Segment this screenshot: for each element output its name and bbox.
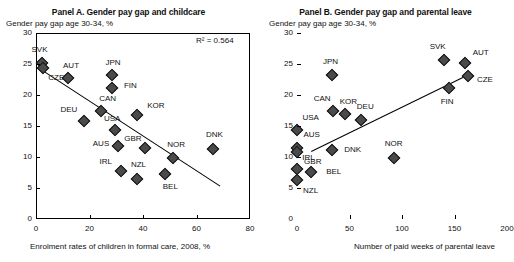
point-label-gbr: GBR: [124, 135, 141, 143]
point-label-can: CAN: [314, 95, 331, 103]
point-label-irl: IRL: [302, 154, 314, 162]
point-label-svk: SVK: [31, 46, 47, 54]
y-axis-tick-mark: [297, 126, 301, 127]
y-axis-tick-label: 5: [10, 184, 32, 192]
scatter-point-irl: [114, 164, 127, 177]
scatter-point-nzl: [131, 172, 144, 185]
point-label-kor: KOR: [340, 98, 357, 106]
point-label-nzl: NZL: [131, 161, 146, 169]
y-axis-tick-mark: [36, 157, 40, 158]
point-label-nzl: NZL: [303, 187, 318, 195]
y-axis-tick-mark: [297, 157, 301, 158]
point-label-fin: FIN: [124, 82, 137, 90]
x-axis-tick-label: 40: [128, 225, 158, 233]
scatter-point-deu: [77, 115, 90, 128]
scatter-point-gbr: [138, 142, 151, 155]
point-label-dnk: DNK: [344, 146, 361, 154]
point-label-aus: AUS: [93, 140, 109, 148]
y-axis-tick-label: 10: [271, 153, 293, 161]
y-axis-tick-label: 5: [271, 184, 293, 192]
x-axis-tick-label: 100: [387, 225, 417, 233]
scatter-point-nor: [387, 152, 400, 165]
x-axis-tick-label: 200: [492, 225, 514, 233]
scatter-point-kor: [339, 108, 352, 121]
scatter-point-cze: [462, 69, 475, 82]
x-axis-tick-label: 50: [335, 225, 365, 233]
panel-a-x-axis-title: Enrolment rates of children in formal ca…: [30, 242, 210, 251]
point-label-bel: BEL: [163, 183, 178, 191]
y-axis-tick-mark: [297, 64, 301, 65]
point-label-jpn: JPN: [105, 59, 120, 67]
scatter-point-jpn: [325, 69, 338, 82]
y-axis-tick-mark: [36, 64, 40, 65]
point-label-cze: CZE: [477, 76, 493, 84]
panel-a-title: Panel A. Gender pay gap and childcare: [0, 7, 257, 17]
y-axis-tick-label: 25: [271, 60, 293, 68]
panel-a-y-axis-title: Gender pay gap age 30-34, %: [6, 19, 113, 28]
y-axis-tick-mark: [36, 126, 40, 127]
y-axis-tick-label: 10: [10, 153, 32, 161]
scatter-point-usa: [109, 124, 122, 137]
point-label-usa: USA: [302, 114, 318, 122]
point-label-aus: AUS: [303, 131, 319, 139]
scatter-point-can: [326, 105, 339, 118]
y-axis-tick-mark: [36, 188, 40, 189]
y-axis-tick-label: 30: [10, 29, 32, 37]
scatter-point-fin: [105, 81, 118, 94]
point-label-nor: NOR: [385, 140, 403, 148]
scatter-point-aut: [459, 56, 472, 69]
scatter-point-jpn: [105, 69, 118, 82]
y-axis-tick-mark: [297, 95, 301, 96]
y-axis-tick-mark: [36, 33, 40, 34]
y-axis-tick-label: 20: [271, 91, 293, 99]
scatter-point-bel: [159, 168, 172, 181]
point-label-svk: SVK: [430, 43, 446, 51]
chart-panel-a: Panel A. Gender pay gap and childcare Ge…: [0, 0, 257, 262]
point-label-aut: AUT: [473, 49, 489, 57]
x-axis-tick-label: 0: [282, 225, 312, 233]
point-label-jpn: JPN: [323, 58, 338, 66]
y-axis-tick-label: 20: [10, 91, 32, 99]
x-axis-tick-label: 0: [21, 225, 51, 233]
point-label-kor: KOR: [147, 102, 164, 110]
panel-b-x-axis-title: Number of paid weeks of parental leave: [354, 242, 495, 251]
x-axis-tick-mark: [90, 215, 91, 219]
x-axis-tick-label: 60: [182, 225, 212, 233]
y-axis-tick-label: 15: [271, 122, 293, 130]
x-axis-tick-mark: [197, 215, 198, 219]
point-label-deu: DEU: [357, 103, 374, 111]
scatter-point-fin: [443, 82, 456, 95]
point-label-fin: FIN: [441, 98, 454, 106]
point-label-deu: DEU: [60, 106, 77, 114]
y-axis-tick-label: 30: [271, 29, 293, 37]
point-label-aut: AUT: [63, 62, 79, 70]
point-label-bel: BEL: [326, 168, 341, 176]
x-axis-tick-label: 150: [440, 225, 470, 233]
scatter-point-dnk: [325, 143, 338, 156]
y-axis-tick-mark: [297, 33, 301, 34]
scatter-point-bel: [304, 166, 317, 179]
point-label-nor: NOR: [167, 141, 185, 149]
y-axis-tick-label: 0: [271, 215, 293, 223]
scatter-point-kor: [131, 108, 144, 121]
panel-b-y-axis-title: Gender pay gap age 30-34, %: [269, 19, 376, 28]
point-label-usa: USA: [104, 115, 120, 123]
panel-b-title: Panel B. Gender pay gap and parental lea…: [257, 7, 514, 17]
y-axis-tick-label: 15: [10, 122, 32, 130]
x-axis-tick-mark: [455, 215, 456, 219]
y-axis-tick-mark: [36, 95, 40, 96]
panel-a-r2-annotation: R² = 0.564: [196, 36, 234, 45]
x-axis-tick-label: 20: [75, 225, 105, 233]
y-axis-tick-label: 0: [10, 215, 32, 223]
scatter-point-dnk: [207, 143, 220, 156]
point-label-can: CAN: [99, 95, 116, 103]
point-label-dnk: DNK: [206, 131, 223, 139]
x-axis-tick-mark: [350, 215, 351, 219]
chart-panel-b: Panel B. Gender pay gap and parental lea…: [257, 0, 514, 262]
y-axis-tick-label: 25: [10, 60, 32, 68]
x-axis-tick-mark: [143, 215, 144, 219]
scatter-point-aus: [112, 139, 125, 152]
y-axis-tick-mark: [297, 188, 301, 189]
scatter-point-svk: [438, 53, 451, 66]
x-axis-tick-mark: [402, 215, 403, 219]
